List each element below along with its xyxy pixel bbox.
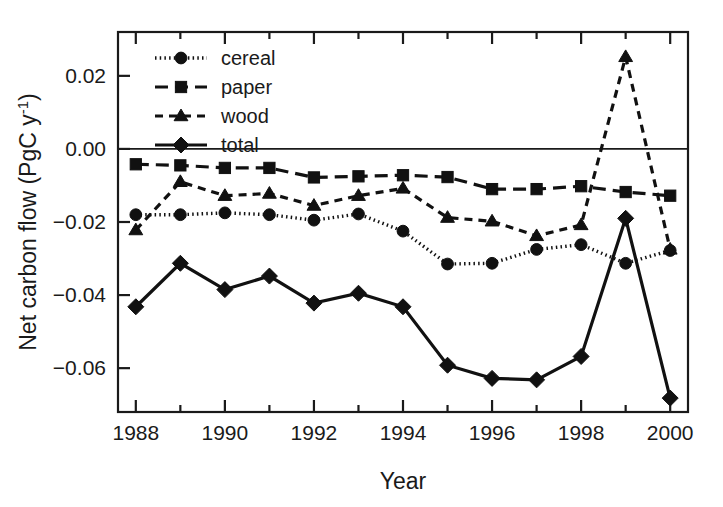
series-marker-paper — [175, 160, 186, 171]
series-line-cereal — [136, 213, 670, 264]
series-marker-cereal — [174, 209, 186, 221]
series-marker-cereal — [264, 209, 276, 221]
x-tick-label: 1998 — [558, 421, 605, 444]
series-marker-total — [573, 348, 589, 364]
series-marker-cereal — [130, 209, 142, 221]
series-marker-total — [217, 282, 233, 298]
data-series-group — [128, 50, 678, 406]
series-marker-wood — [485, 214, 499, 226]
y-axis-title-main: Net carbon flow (PgC y — [15, 114, 41, 351]
series-marker-paper — [665, 190, 676, 201]
series-marker-wood — [574, 218, 588, 230]
svg-text:Net carbon flow (PgC y-1): Net carbon flow (PgC y-1) — [14, 93, 41, 351]
series-marker-cereal — [442, 258, 454, 270]
series-cereal — [130, 207, 676, 270]
legend-entry-wood: wood — [155, 105, 269, 127]
series-marker-wood — [173, 175, 187, 187]
series-marker-wood — [262, 187, 276, 199]
series-marker-paper — [397, 170, 408, 181]
y-tick-label: 0.00 — [65, 137, 106, 160]
series-marker-paper — [442, 171, 453, 182]
y-tick-label: −0.04 — [53, 283, 106, 306]
series-marker-cereal — [353, 208, 365, 220]
series-marker-paper — [486, 183, 497, 194]
y-axis-title-superscript: -1 — [14, 101, 31, 114]
series-marker-total — [350, 285, 366, 301]
series-wood — [129, 50, 677, 254]
series-marker-wood — [619, 50, 633, 62]
y-tick-label: −0.02 — [53, 210, 106, 233]
series-marker-wood — [530, 229, 544, 241]
x-tick-label: 2000 — [647, 421, 694, 444]
legend-marker-total — [173, 137, 189, 153]
x-axis-ticks: 1988199019921994199619982000 — [112, 32, 693, 444]
legend-marker-cereal — [175, 52, 187, 64]
y-tick-label: 0.02 — [65, 64, 106, 87]
series-marker-total — [306, 295, 322, 311]
legend-entry-cereal: cereal — [155, 47, 275, 69]
series-marker-paper — [620, 186, 631, 197]
series-total — [128, 210, 678, 406]
series-marker-total — [261, 268, 277, 284]
legend-marker-paper — [175, 81, 186, 92]
series-marker-cereal — [219, 207, 231, 219]
series-paper — [130, 159, 676, 202]
x-tick-label: 1992 — [291, 421, 338, 444]
legend-label-wood: wood — [220, 105, 269, 127]
series-marker-paper — [130, 159, 141, 170]
series-marker-cereal — [397, 225, 409, 237]
plot-frame — [118, 32, 688, 412]
series-marker-paper — [219, 162, 230, 173]
series-line-wood — [136, 57, 670, 250]
series-marker-cereal — [531, 244, 543, 256]
series-marker-total — [662, 390, 678, 406]
series-marker-cereal — [486, 257, 498, 269]
series-marker-cereal — [575, 239, 587, 251]
x-axis-title: Year — [380, 468, 427, 494]
net-carbon-flow-chart: 0.020.00−0.02−0.04−0.06 1988199019921994… — [0, 0, 723, 507]
legend-label-total: total — [221, 134, 259, 156]
chart-figure: 0.020.00−0.02−0.04−0.06 1988199019921994… — [0, 0, 723, 507]
series-marker-paper — [353, 171, 364, 182]
y-tick-label: −0.06 — [53, 356, 106, 379]
series-marker-paper — [308, 172, 319, 183]
series-marker-total — [529, 372, 545, 388]
x-tick-label: 1996 — [469, 421, 516, 444]
y-axis-title-tail: ) — [15, 93, 41, 101]
series-marker-total — [618, 210, 634, 226]
series-marker-wood — [396, 181, 410, 193]
legend-entry-total: total — [155, 134, 259, 156]
series-marker-paper — [264, 162, 275, 173]
y-axis-title: Net carbon flow (PgC y-1) — [14, 93, 41, 351]
legend-label-cereal: cereal — [221, 47, 275, 69]
series-marker-paper — [531, 183, 542, 194]
series-marker-cereal — [308, 214, 320, 226]
legend-label-paper: paper — [221, 76, 272, 98]
legend-entry-paper: paper — [155, 76, 272, 98]
x-tick-label: 1988 — [112, 421, 159, 444]
series-marker-paper — [575, 181, 586, 192]
series-marker-total — [484, 370, 500, 386]
chart-legend: cerealpaperwoodtotal — [155, 47, 275, 156]
series-marker-cereal — [620, 257, 632, 269]
x-tick-label: 1994 — [380, 421, 427, 444]
x-tick-label: 1990 — [202, 421, 249, 444]
